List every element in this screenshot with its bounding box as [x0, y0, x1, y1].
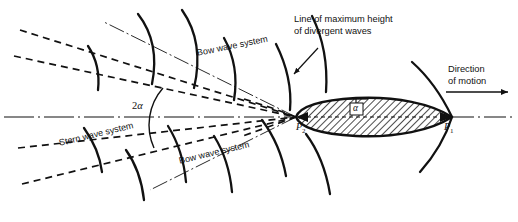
p2-subscript: 2 [302, 127, 306, 135]
max-height-leader-line [294, 48, 318, 74]
label-direction-line-1: Direction [448, 64, 485, 75]
label-point-p1: P1 [444, 121, 454, 135]
label-max-height-line-2: of divergent waves [294, 26, 372, 37]
angle-2alpha-symbol: α [137, 100, 143, 111]
label-point-p2: P2 [296, 121, 306, 135]
wake-diagram-vector [0, 0, 518, 222]
p1-subscript: 1 [450, 127, 454, 135]
figure-canvas: Bow wave system Bow wave system Stern wa… [0, 0, 518, 222]
label-max-height-line-1: Line of maximum height [294, 14, 393, 25]
ship-hull [296, 98, 452, 137]
divergent-envelope-lower [18, 117, 296, 184]
angle-arc-2alpha [149, 88, 163, 148]
label-angle-alpha: α [353, 103, 358, 114]
label-angle-2alpha: 2α [132, 100, 143, 112]
label-direction-line-2: of motion [448, 76, 486, 87]
